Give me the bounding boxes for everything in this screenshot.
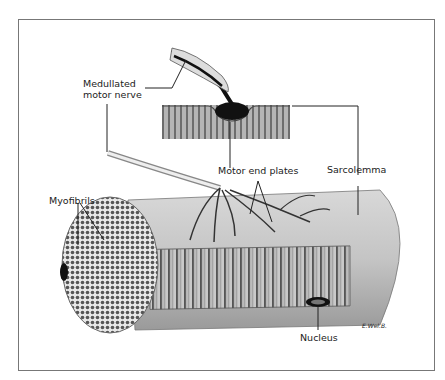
label-myofibrils: Myofibrils xyxy=(49,195,95,206)
artist-signature: E.Wel.B. xyxy=(362,320,387,331)
label-nucleus: Nucleus xyxy=(300,332,338,343)
label-nerve-line1: Medullated xyxy=(83,78,136,89)
label-sarcolemma: Sarcolemma xyxy=(327,164,386,175)
label-nerve-line2: motor nerve xyxy=(83,89,142,100)
muscle-fiber xyxy=(60,190,400,333)
end-plate-inset xyxy=(162,48,290,139)
label-motor-end-plates: Motor end plates xyxy=(218,165,298,176)
